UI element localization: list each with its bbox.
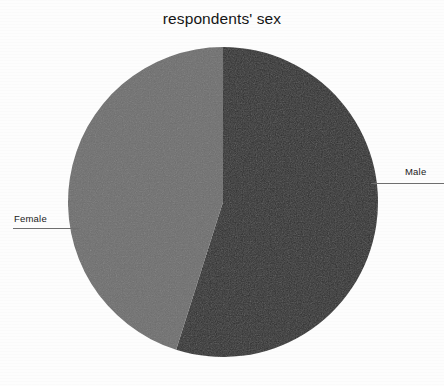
leader-line-male <box>371 183 444 184</box>
leader-line-female <box>13 228 79 229</box>
chart-page: respondents' sex Male Female <box>0 0 444 386</box>
pie-chart <box>0 0 444 386</box>
pie-label-male: Male <box>405 166 426 177</box>
pie-chart-svg <box>0 0 444 386</box>
pie-label-female: Female <box>14 213 47 224</box>
